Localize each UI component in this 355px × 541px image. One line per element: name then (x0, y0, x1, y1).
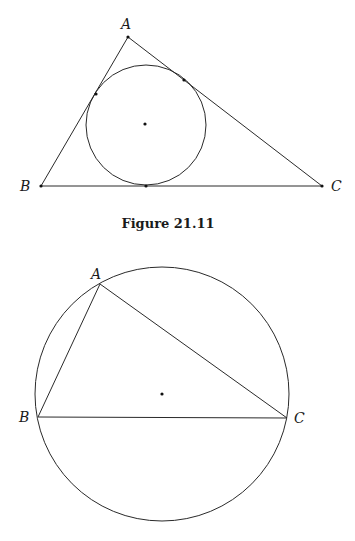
circumcenter-point (160, 392, 163, 395)
incenter-point (143, 122, 146, 125)
vertex-a-point (126, 35, 129, 38)
label-c: C (294, 410, 305, 426)
figure-circumcircle: A B C (18, 266, 305, 521)
figure-incircle: A B C (19, 16, 342, 194)
label-b: B (19, 178, 30, 194)
figures-canvas: A B C A B C (0, 0, 355, 541)
vertex-c-point (320, 184, 323, 187)
tangent-point-ac (182, 78, 185, 81)
triangle-abc (38, 284, 287, 418)
label-b: B (18, 409, 29, 425)
label-c: C (331, 178, 342, 194)
tangent-point-ab (94, 92, 97, 95)
figure-caption: Figure 21.11 (0, 216, 336, 231)
label-a: A (89, 266, 101, 282)
vertex-b-point (39, 184, 42, 187)
tangent-point-bc (144, 184, 147, 187)
triangle-abc (41, 37, 322, 186)
label-a: A (119, 16, 131, 32)
